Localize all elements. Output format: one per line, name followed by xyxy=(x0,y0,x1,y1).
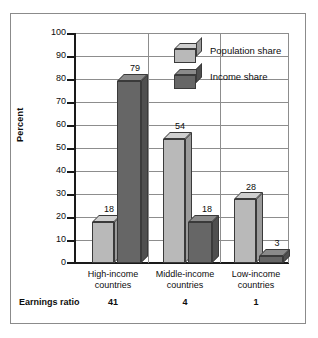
bar-front-face xyxy=(92,222,114,263)
legend-swatch-income-share-cube-icon xyxy=(174,69,196,83)
y-tick-label-40: 40 xyxy=(40,166,66,175)
bar-income-share-low-income[interactable] xyxy=(259,256,283,263)
legend-label-income-share: Income share xyxy=(210,71,268,82)
bar-population-share-high-income[interactable] xyxy=(92,222,114,263)
y-tick-20 xyxy=(67,217,74,219)
bar-value-3-low: 3 xyxy=(264,239,290,248)
bar-side-face xyxy=(141,74,148,263)
y-tick-label-70: 70 xyxy=(40,97,66,106)
legend-label-population-share: Population share xyxy=(210,45,281,56)
bar-population-share-low-income[interactable] xyxy=(234,199,256,263)
y-tick-label-50: 50 xyxy=(40,143,66,152)
y-tick-label-90: 90 xyxy=(40,51,66,60)
earnings-ratio-value-high-income: 41 xyxy=(83,297,143,307)
bar-value-79-high: 79 xyxy=(122,64,148,73)
legend-cube-front-face xyxy=(174,75,196,89)
y-tick-70 xyxy=(67,102,74,104)
legend-item-income-share[interactable]: Income share xyxy=(174,63,286,89)
bar-value-18-middle: 18 xyxy=(194,205,220,214)
y-tick-60 xyxy=(67,125,74,127)
bar-front-face xyxy=(117,81,141,263)
bar-front-face xyxy=(259,256,283,263)
legend-item-population-share[interactable]: Population share xyxy=(174,37,286,63)
y-tick-label-0: 0 xyxy=(40,258,66,267)
y-tick-90 xyxy=(67,56,74,58)
category-label-high-income: High-income countries xyxy=(75,269,151,291)
bar-value-28-low: 28 xyxy=(238,183,264,192)
y-tick-label-100: 100 xyxy=(40,28,66,37)
bar-population-share-middle-income[interactable] xyxy=(163,139,185,263)
chart-figure: Percent 100 90 80 70 60 50 40 30 20 10 0 xyxy=(10,13,306,324)
bar-front-face xyxy=(234,199,256,263)
y-tick-100 xyxy=(67,33,74,35)
chart-legend: Population share Income share xyxy=(174,37,286,89)
y-axis-line xyxy=(74,33,76,263)
category-label-low-income: Low-income countries xyxy=(218,269,294,291)
category-label-line-2: countries xyxy=(147,280,223,291)
y-tick-10 xyxy=(67,240,74,242)
plot-right-edge xyxy=(288,33,289,263)
plot-area: 18 79 54 18 28 xyxy=(74,33,289,263)
bar-front-face xyxy=(163,139,185,263)
y-tick-label-10: 10 xyxy=(40,235,66,244)
bar-income-share-high-income[interactable] xyxy=(117,81,141,263)
legend-cube-side-face xyxy=(196,37,202,57)
y-tick-50 xyxy=(67,148,74,150)
category-label-line-1: High-income xyxy=(75,269,151,280)
legend-cube-side-face xyxy=(196,63,202,83)
category-label-line-2: countries xyxy=(218,280,294,291)
bar-side-face xyxy=(212,215,219,263)
y-axis-title: Percent xyxy=(15,108,25,142)
category-label-line-1: Low-income xyxy=(218,269,294,280)
bar-front-face xyxy=(188,222,212,263)
y-tick-label-30: 30 xyxy=(40,189,66,198)
y-tick-label-20: 20 xyxy=(40,212,66,221)
gridline-100 xyxy=(74,33,289,34)
bar-income-share-middle-income[interactable] xyxy=(188,222,212,263)
y-tick-40 xyxy=(67,171,74,173)
y-tick-30 xyxy=(67,194,74,196)
y-tick-0 xyxy=(67,262,74,264)
y-tick-label-60: 60 xyxy=(40,120,66,129)
category-label-line-2: countries xyxy=(75,280,151,291)
legend-swatch-population-share-cube-icon xyxy=(174,43,196,57)
category-label-line-1: Middle-income xyxy=(147,269,223,280)
bar-value-54-middle: 54 xyxy=(167,122,193,131)
gridline-70 xyxy=(74,102,289,103)
y-tick-label-80: 80 xyxy=(40,74,66,83)
earnings-ratio-value-low-income: 1 xyxy=(226,297,286,307)
category-separator-1 xyxy=(148,33,149,263)
category-label-middle-income: Middle-income countries xyxy=(147,269,223,291)
y-tick-80 xyxy=(67,79,74,81)
legend-cube-front-face xyxy=(174,49,196,63)
earnings-ratio-value-middle-income: 4 xyxy=(155,297,215,307)
earnings-ratio-label: Earnings ratio xyxy=(19,297,80,307)
